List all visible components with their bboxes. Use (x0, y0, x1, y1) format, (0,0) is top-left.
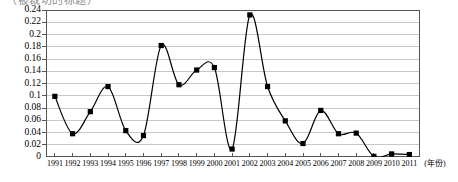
y-axis-tick-label: 0.12 (24, 79, 41, 89)
y-axis-tick-labels: 0.240.220.20.180.160.140.120.10.080.060.… (0, 10, 41, 157)
data-point-marker (52, 94, 57, 99)
data-point-marker (407, 152, 412, 157)
data-point-marker (176, 82, 181, 87)
line-chart: （被裁切的标题） 0.240.220.20.180.160.140.120.10… (0, 0, 458, 182)
y-axis-tick-label: 0.02 (24, 140, 41, 150)
x-axis-tick-labels: (年份) 19911992199319941995199619971998199… (46, 160, 458, 174)
clipped-title-strip: （被裁切的标题） (0, 0, 458, 7)
y-axis-tick-label: 0.1 (29, 91, 41, 101)
data-point-marker (300, 141, 305, 146)
y-axis-tick-label: 0.14 (24, 66, 41, 76)
plot-svg (46, 10, 420, 157)
x-axis-title: (年份) (424, 160, 445, 168)
plot-area (46, 10, 420, 157)
y-axis-ticks (41, 10, 47, 157)
data-point-marker (194, 67, 199, 72)
data-point-marker (283, 118, 288, 123)
y-axis-tick-label: 0.18 (24, 42, 41, 52)
data-point-marker (141, 133, 146, 138)
y-axis-tick-label: 0.22 (24, 17, 41, 27)
data-point-marker (70, 131, 75, 136)
data-point-marker (123, 128, 128, 133)
data-point-marker (230, 146, 235, 151)
data-point-marker (389, 151, 394, 156)
x-axis-tick-label: 2011 (396, 160, 422, 168)
y-axis-tick-label: 0.24 (24, 5, 41, 15)
y-axis-tick-label: 0.16 (24, 54, 41, 64)
data-point-marker (212, 65, 217, 70)
y-axis-tick-label: 0.04 (24, 128, 41, 138)
data-point-marker (159, 43, 164, 48)
data-point-marker (336, 131, 341, 136)
data-point-marker (318, 108, 323, 113)
data-point-marker (247, 12, 252, 17)
data-point-marker (105, 84, 110, 89)
y-axis-tick-label: 0.08 (24, 103, 41, 113)
y-axis-tick-label: 0.2 (29, 30, 41, 40)
data-point-marker (88, 109, 93, 114)
data-point-marker (354, 131, 359, 136)
data-point-marker (265, 84, 270, 89)
y-axis-tick-label: 0.06 (24, 115, 41, 125)
data-point-marker (371, 154, 376, 157)
chart-title: （被裁切的标题） (6, 0, 98, 7)
